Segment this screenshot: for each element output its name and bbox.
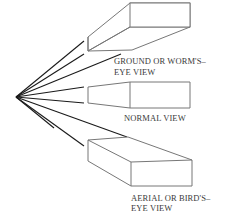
- box-aerial-view: [88, 137, 192, 186]
- perspective-diagram: [0, 0, 234, 220]
- label-ground-view-line2: EYE VIEW: [114, 67, 155, 77]
- label-aerial-view-line1: AERIAL OR BIRD'S–: [131, 193, 210, 203]
- sight-line-aerial-inner: [16, 97, 54, 128]
- box-ground-view: [88, 3, 190, 51]
- sight-line-aerial-mid: [16, 97, 84, 146]
- sight-line-normal-bottom: [16, 97, 84, 103]
- label-aerial-view-line2: EYE VIEW: [131, 203, 172, 213]
- sight-line-ground-mid: [16, 54, 84, 97]
- label-normal-view: NORMAL VIEW: [124, 113, 186, 123]
- box-normal-view: [88, 82, 190, 108]
- label-ground-view-line1: GROUND OR WORM'S–: [114, 56, 206, 66]
